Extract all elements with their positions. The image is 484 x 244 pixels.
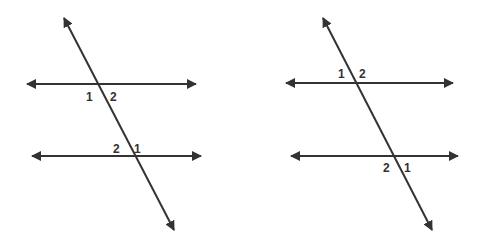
parallel-lines-diagram: 12211221 — [0, 0, 484, 244]
transversal-line — [64, 18, 174, 230]
angle-label: 2 — [113, 142, 120, 156]
transversal-line — [323, 18, 432, 230]
angle-label: 1 — [404, 161, 411, 175]
angle-label: 1 — [86, 90, 93, 104]
angle-label: 2 — [359, 67, 366, 81]
left-figure: 1221 — [27, 18, 201, 230]
right-figure: 1221 — [286, 18, 458, 230]
angle-label: 2 — [383, 161, 390, 175]
angle-label: 2 — [110, 90, 117, 104]
angle-label: 1 — [338, 67, 345, 81]
angle-label: 1 — [134, 142, 141, 156]
